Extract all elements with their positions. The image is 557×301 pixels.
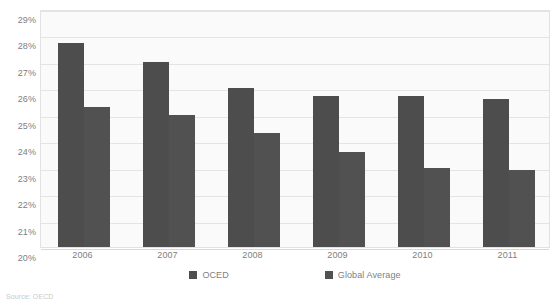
bar-group bbox=[58, 11, 110, 247]
x-tick-label: 2010 bbox=[412, 250, 432, 261]
bar[interactable] bbox=[313, 96, 339, 247]
legend-item[interactable]: OCED bbox=[189, 271, 228, 280]
bar-group bbox=[398, 11, 450, 247]
bar[interactable] bbox=[509, 170, 535, 247]
bar[interactable] bbox=[254, 133, 280, 247]
chart-legend: OCEDGlobal Average bbox=[40, 269, 550, 281]
bar[interactable] bbox=[169, 115, 195, 247]
bar[interactable] bbox=[483, 99, 509, 247]
bar-group bbox=[313, 11, 365, 247]
bar-group bbox=[483, 11, 535, 247]
x-tick-label: 2006 bbox=[72, 250, 92, 261]
bar[interactable] bbox=[84, 107, 110, 247]
bars-layer bbox=[41, 11, 549, 247]
x-axis: 200620072008200920102011 bbox=[40, 250, 550, 264]
bar-group bbox=[228, 11, 280, 247]
source-note: Source: OECD bbox=[6, 292, 54, 301]
legend-swatch-icon bbox=[189, 271, 197, 279]
x-tick-label: 2009 bbox=[327, 250, 347, 261]
bar-group bbox=[143, 11, 195, 247]
legend-item[interactable]: Global Average bbox=[325, 271, 401, 280]
x-tick-label: 2007 bbox=[157, 250, 177, 261]
y-tick-label: 26% bbox=[18, 95, 36, 104]
y-tick-label: 22% bbox=[18, 201, 36, 210]
plot-area bbox=[40, 10, 550, 248]
bar[interactable] bbox=[339, 152, 365, 247]
bar[interactable] bbox=[228, 88, 254, 247]
bar[interactable] bbox=[143, 62, 169, 247]
y-tick-label: 21% bbox=[18, 227, 36, 236]
y-tick-label: 23% bbox=[18, 174, 36, 183]
y-tick-label: 25% bbox=[18, 121, 36, 130]
bar[interactable] bbox=[58, 43, 84, 247]
y-axis: 29%28%27%26%25%24%23%22%21%20% bbox=[0, 10, 36, 248]
legend-swatch-icon bbox=[325, 271, 333, 279]
y-tick-label: 29% bbox=[18, 16, 36, 25]
y-tick-label: 24% bbox=[18, 148, 36, 157]
bar[interactable] bbox=[398, 96, 424, 247]
x-tick-label: 2008 bbox=[242, 250, 262, 261]
bar[interactable] bbox=[424, 168, 450, 247]
y-tick-label: 20% bbox=[18, 254, 36, 263]
y-tick-label: 28% bbox=[18, 42, 36, 51]
legend-label: Global Average bbox=[338, 271, 401, 280]
y-tick-label: 27% bbox=[18, 68, 36, 77]
bar-chart-figure: 29%28%27%26%25%24%23%22%21%20% 200620072… bbox=[0, 0, 557, 301]
x-tick-label: 2011 bbox=[498, 250, 518, 261]
legend-label: OCED bbox=[202, 271, 228, 280]
